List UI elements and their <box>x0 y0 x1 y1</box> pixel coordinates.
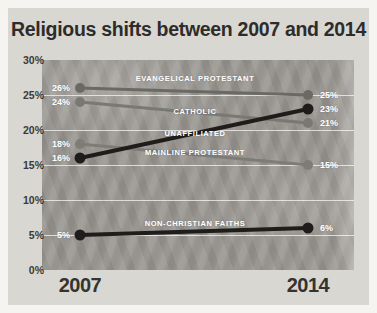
plot-area: EVANGELICAL PROTESTANT26%25%CATHOLIC24%2… <box>42 60 354 270</box>
x-axis-label-2014: 2014 <box>287 274 330 297</box>
slopegraph-canvas <box>42 60 354 270</box>
chart-card: Religious shifts between 2007 and 2014 E… <box>8 8 369 305</box>
value-label-2007: 18% <box>42 139 70 149</box>
value-label-2007: 26% <box>42 83 70 93</box>
series-dot <box>75 97 85 107</box>
series-dot <box>303 90 313 100</box>
value-label-2014: 15% <box>320 160 338 170</box>
series-dot <box>75 230 86 241</box>
series-name-label: CATHOLIC <box>174 107 217 116</box>
series-name-label: UNAFFILIATED <box>164 128 225 137</box>
y-tick-label-25: 25% <box>4 89 44 101</box>
value-label-2007: 16% <box>42 153 70 163</box>
y-tick-label-0: 0% <box>4 264 44 276</box>
value-label-2007: 24% <box>42 97 70 107</box>
infographic-frame: Religious shifts between 2007 and 2014 E… <box>0 0 377 313</box>
series-name-label: EVANGELICAL PROTESTANT <box>136 74 255 83</box>
y-tick-label-30: 30% <box>4 54 44 66</box>
series-dot <box>75 83 85 93</box>
value-label-2014: 21% <box>320 118 338 128</box>
x-axis-label-2007: 2007 <box>59 274 102 297</box>
series-dot <box>303 104 314 115</box>
value-label-2014: 6% <box>320 223 333 233</box>
value-label-2014: 25% <box>320 90 338 100</box>
y-tick-label-10: 10% <box>4 194 44 206</box>
series-name-label: MAINLINE PROTESTANT <box>145 147 245 156</box>
series-name-label: NON-CHRISTIAN FAITHS <box>145 219 246 228</box>
series-dot <box>303 118 313 128</box>
y-tick-label-5: 5% <box>4 229 44 241</box>
series-dot <box>75 153 86 164</box>
series-dot <box>303 223 314 234</box>
series-line <box>80 228 308 235</box>
y-tick-label-15: 15% <box>4 159 44 171</box>
series-line <box>80 88 308 95</box>
series-dot <box>75 139 85 149</box>
value-label-2014: 23% <box>320 104 338 114</box>
value-label-2007: 5% <box>42 230 70 240</box>
series-dot <box>303 160 313 170</box>
y-tick-label-20: 20% <box>4 124 44 136</box>
chart-title: Religious shifts between 2007 and 2014 <box>8 18 369 41</box>
